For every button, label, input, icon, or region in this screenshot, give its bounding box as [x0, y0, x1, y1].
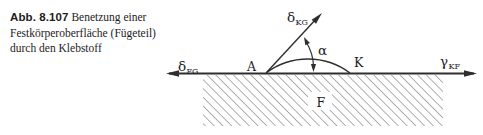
label-gamma-kf-sub: KF — [449, 62, 461, 71]
label-point-a: A — [246, 59, 257, 74]
wetting-diagram: δ FG δ KG γ KF α A K F — [0, 0, 483, 135]
angle-arrow-head-upper — [302, 36, 310, 45]
figure-8-107: Abb. 8.107 Benetzung einer Festkörperobe… — [0, 0, 483, 135]
delta-kg-vector — [267, 18, 318, 73]
label-delta-fg: δ — [178, 58, 186, 74]
label-delta-kg-sub: KG — [296, 18, 308, 27]
label-point-k: K — [354, 55, 364, 70]
label-delta-kg: δ — [287, 9, 295, 25]
label-delta-fg-sub: FG — [187, 67, 199, 76]
label-region-f: F — [317, 95, 326, 110]
adhesive-drop-arc — [266, 59, 350, 73]
label-gamma-kf: γ — [440, 53, 448, 69]
contact-angle-arc — [306, 41, 314, 68]
angle-arrow-head-lower — [311, 64, 316, 72]
gamma-kf-arrowhead — [464, 70, 477, 76]
label-alpha: α — [318, 42, 327, 58]
